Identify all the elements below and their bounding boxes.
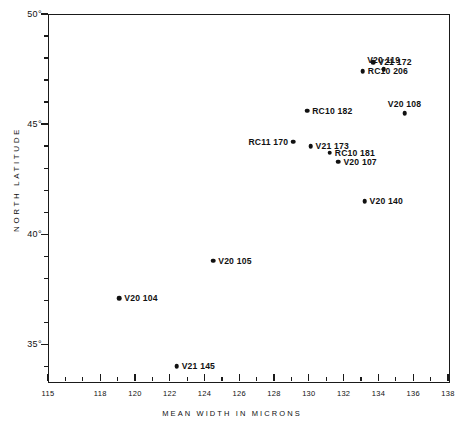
y-tick-minor [44, 212, 48, 213]
x-tick [221, 377, 222, 381]
x-tick-label: 138 [441, 389, 454, 398]
y-tick-minor [44, 35, 48, 36]
data-point-marker[interactable] [305, 109, 310, 114]
x-tick [47, 374, 48, 381]
y-tick-major [41, 123, 48, 124]
data-point-label: RC10 206 [368, 66, 408, 76]
y-tick-minor [44, 256, 48, 257]
y-tick-minor [44, 101, 48, 102]
x-tick-label: 118 [94, 389, 107, 398]
x-tick [134, 374, 135, 381]
x-tick [169, 374, 170, 381]
data-point-marker[interactable] [308, 144, 313, 149]
x-tick [326, 377, 327, 381]
x-tick-label: 132 [337, 389, 350, 398]
y-tick-major [41, 344, 48, 345]
data-point-marker[interactable] [291, 139, 296, 144]
data-point-label: V20 107 [343, 157, 376, 167]
y-tick-minor [44, 366, 48, 367]
y-tick-minor [44, 300, 48, 301]
x-tick [100, 374, 101, 381]
y-tick-label: 35° [10, 339, 42, 349]
x-tick [65, 377, 66, 381]
data-point-label: V21 145 [182, 361, 215, 371]
x-tick [273, 374, 274, 381]
x-tick [430, 377, 431, 381]
x-tick-label: 122 [163, 389, 176, 398]
x-tick [291, 377, 292, 381]
data-point-marker[interactable] [117, 296, 122, 301]
x-tick-label: 136 [406, 389, 419, 398]
x-tick [308, 374, 309, 381]
data-point-marker[interactable] [174, 364, 179, 369]
x-tick-label: 130 [302, 389, 315, 398]
x-tick [360, 377, 361, 381]
x-tick-label: 124 [198, 389, 211, 398]
y-axis-title: NORTH LATITUDE [12, 80, 21, 280]
x-tick [204, 374, 205, 381]
x-tick [413, 374, 414, 381]
y-tick-minor [44, 145, 48, 146]
data-point-marker[interactable] [360, 69, 365, 74]
x-tick [187, 377, 188, 381]
data-point-label: V20 104 [124, 293, 157, 303]
x-tick [395, 377, 396, 381]
y-tick-label: 50° [10, 9, 42, 19]
y-tick-minor [44, 79, 48, 80]
data-point-marker[interactable] [336, 159, 341, 164]
y-tick-minor [44, 278, 48, 279]
x-tick-label: 120 [128, 389, 141, 398]
x-axis-title: MEAN WIDTH IN MICRONS [0, 409, 464, 418]
x-tick [117, 377, 118, 381]
x-tick [239, 374, 240, 381]
x-tick [447, 374, 448, 381]
y-tick-minor [44, 322, 48, 323]
data-point-label: V20 105 [218, 256, 251, 266]
y-tick-major [41, 13, 48, 14]
data-point-label: V20 140 [370, 196, 403, 206]
data-point-marker[interactable] [402, 111, 407, 116]
scatter-chart-figure: 115118120122124126128130132134136138 50°… [0, 0, 464, 434]
x-tick-label: 128 [267, 389, 280, 398]
data-point-marker[interactable] [371, 60, 376, 65]
x-tick-label: 126 [233, 389, 246, 398]
y-tick-minor [44, 190, 48, 191]
data-point-marker[interactable] [211, 258, 216, 263]
x-tick [256, 377, 257, 381]
x-tick [82, 377, 83, 381]
data-point-marker[interactable] [362, 199, 367, 204]
data-point-label: RC11 170 [248, 137, 288, 147]
data-point-label: V20 108 [388, 99, 421, 109]
x-tick [378, 374, 379, 381]
data-point-label: RC10 182 [312, 106, 352, 116]
y-tick-major [41, 234, 48, 235]
x-tick-label: 115 [42, 389, 55, 398]
x-tick [152, 377, 153, 381]
x-tick-label: 134 [372, 389, 385, 398]
x-tick [343, 374, 344, 381]
data-point-marker[interactable] [327, 150, 332, 155]
y-tick-minor [44, 168, 48, 169]
y-tick-minor [44, 57, 48, 58]
